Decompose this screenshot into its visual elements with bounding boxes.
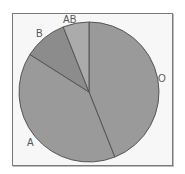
- label-o: O: [158, 74, 166, 84]
- label-a: A: [27, 138, 34, 148]
- pie-slices: [19, 22, 159, 162]
- label-ab: AB: [63, 15, 76, 25]
- label-b: B: [36, 29, 43, 39]
